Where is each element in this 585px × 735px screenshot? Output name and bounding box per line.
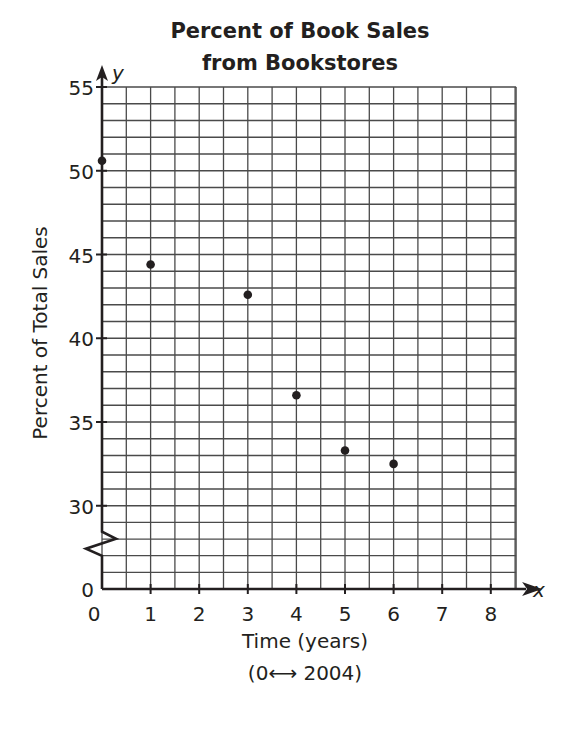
- x-axis-label: Time (years): [241, 629, 368, 653]
- x-tick-label: 2: [193, 602, 206, 626]
- y-axis-label: Percent of Total Sales: [28, 226, 52, 440]
- data-point: [98, 156, 107, 165]
- y-tick-label: 45: [69, 244, 94, 268]
- y-tick-label: 50: [69, 160, 94, 184]
- x-tick-label: 6: [387, 602, 400, 626]
- x-tick-label: 4: [290, 602, 303, 626]
- data-point: [146, 260, 155, 269]
- x-tick-label: 0: [88, 602, 101, 626]
- scatter-chart: Percent of Book Sales from Bookstores 01…: [0, 0, 585, 735]
- x-tick-label: 8: [484, 602, 497, 626]
- x-tick-label: 5: [339, 602, 352, 626]
- x-axis-variable: x: [532, 578, 545, 602]
- y-axis-variable: y: [111, 61, 125, 85]
- tick-labels: 0123456780303540455055: [69, 76, 498, 626]
- axes: [86, 65, 542, 596]
- data-point: [244, 290, 253, 299]
- y-tick-label: 55: [69, 76, 94, 100]
- chart-title-line-1: Percent of Book Sales: [170, 19, 429, 43]
- x-tick-label: 3: [241, 602, 254, 626]
- chart-title-line-2: from Bookstores: [202, 51, 398, 75]
- x-tick-label: 1: [144, 602, 157, 626]
- chart-title: Percent of Book Sales from Bookstores: [170, 19, 429, 75]
- y-tick-label: 30: [69, 495, 94, 519]
- x-tick-label: 7: [436, 602, 449, 626]
- data-point: [292, 391, 301, 400]
- data-point: [341, 446, 350, 455]
- y-tick-label: 0: [81, 578, 94, 602]
- y-tick-label: 35: [69, 411, 94, 435]
- data-point: [389, 460, 398, 469]
- y-tick-label: 40: [69, 327, 94, 351]
- x-axis-note: (0⟷ 2004): [248, 661, 362, 685]
- grid: [102, 87, 516, 589]
